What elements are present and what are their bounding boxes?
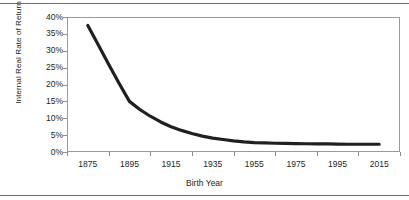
x-tick-label: 1955	[228, 160, 280, 169]
y-tick-label: 5%	[23, 131, 63, 140]
y-tick-mark	[63, 152, 67, 153]
y-tick-label: 40%	[23, 13, 63, 22]
y-tick-label: 30%	[23, 46, 63, 55]
x-tick-mark	[358, 152, 359, 156]
chart-figure: Internal Real Rate of Return Birth Year …	[0, 0, 409, 200]
y-tick-label: 0%	[23, 148, 63, 157]
y-tick-label: 35%	[23, 29, 63, 38]
figure-bottom-rule	[0, 195, 409, 196]
line-series	[67, 17, 400, 152]
x-tick-mark	[275, 152, 276, 156]
x-tick-mark	[192, 152, 193, 156]
figure-top-rule	[0, 3, 409, 4]
x-tick-mark	[67, 152, 68, 156]
x-tick-mark	[317, 152, 318, 156]
y-tick-label: 25%	[23, 63, 63, 72]
y-tick-label: 15%	[23, 97, 63, 106]
x-tick-label: 1875	[62, 160, 114, 169]
x-tick-mark	[234, 152, 235, 156]
x-tick-label: 1995	[312, 160, 364, 169]
x-tick-label: 1935	[187, 160, 239, 169]
x-tick-label: 2015	[353, 160, 405, 169]
y-tick-label: 10%	[23, 114, 63, 123]
y-axis-title: Internal Real Rate of Return	[14, 0, 23, 123]
x-tick-label: 1915	[145, 160, 197, 169]
x-tick-mark	[109, 152, 110, 156]
x-tick-mark	[150, 152, 151, 156]
y-tick-label: 20%	[23, 80, 63, 89]
x-axis-title: Birth Year	[0, 179, 409, 188]
x-tick-label: 1895	[103, 160, 155, 169]
x-tick-label: 1975	[270, 160, 322, 169]
x-tick-mark	[400, 152, 401, 156]
